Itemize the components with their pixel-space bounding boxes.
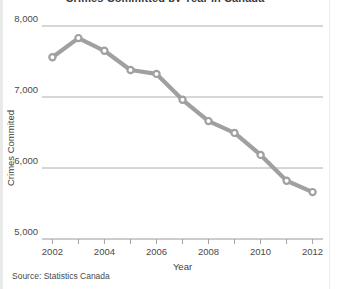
x-axis-title: Year [173, 261, 192, 272]
x-tick-label-2010: 2010 [250, 246, 271, 257]
gridlines-group [42, 26, 323, 239]
y-axis-title: Crimes Commited [5, 110, 16, 186]
x-tick-label-2006: 2006 [146, 246, 167, 257]
x-tick-label-2012: 2012 [302, 246, 323, 257]
x-tick-label-2008: 2008 [198, 246, 219, 257]
x-tick-marks-group [52, 239, 312, 244]
x-tick-label-2004: 2004 [94, 246, 115, 257]
data-series-group [49, 35, 315, 195]
data-point-2002 [49, 54, 55, 60]
chart-figure: Crimes Committed by Year in Canada 5,000… [0, 0, 342, 289]
data-point-2007 [179, 97, 185, 103]
x-tick-labels-group: 200220042006200820102012 [42, 246, 323, 257]
series-line-crimes [52, 38, 312, 192]
chart-plot-area: 5,0006,0007,0008,000 2002200420062008201… [0, 0, 342, 289]
y-tick-label-8000: 8,000 [14, 13, 38, 24]
data-point-2012 [310, 189, 316, 195]
y-tick-label-6000: 6,000 [14, 155, 38, 166]
y-tick-label-7000: 7,000 [14, 84, 38, 95]
x-tick-label-2002: 2002 [42, 246, 63, 257]
data-point-2006 [153, 71, 159, 77]
data-point-2008 [205, 118, 211, 124]
data-point-2005 [127, 67, 133, 73]
data-point-2003 [75, 35, 81, 41]
data-point-2010 [258, 152, 264, 158]
y-tick-labels-group: 5,0006,0007,0008,000 [14, 13, 38, 237]
data-point-2011 [284, 178, 290, 184]
y-tick-label-5000: 5,000 [14, 226, 38, 237]
source-note: Source: Statistics Canada [12, 271, 110, 281]
data-point-2004 [101, 48, 107, 54]
data-point-2009 [231, 130, 237, 136]
